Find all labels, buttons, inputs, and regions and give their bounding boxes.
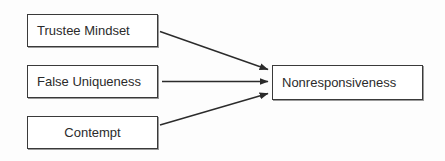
node-label-false-uniqueness: False Uniqueness [28, 75, 141, 89]
node-label-contempt: Contempt [64, 126, 120, 140]
node-label-nonresponsiveness: Nonresponsiveness [273, 76, 396, 90]
node-contempt[interactable]: Contempt [27, 116, 158, 149]
path-diagram: Trustee Mindset False Uniqueness Contemp… [0, 0, 445, 161]
node-false-uniqueness[interactable]: False Uniqueness [27, 65, 158, 98]
node-nonresponsiveness[interactable]: Nonresponsiveness [272, 65, 423, 100]
node-label-trustee-mindset: Trustee Mindset [28, 24, 130, 38]
edge-contempt-to-nonresponsiveness [160, 94, 268, 126]
node-trustee-mindset[interactable]: Trustee Mindset [27, 14, 158, 47]
edge-trustee-to-nonresponsiveness [160, 32, 268, 70]
